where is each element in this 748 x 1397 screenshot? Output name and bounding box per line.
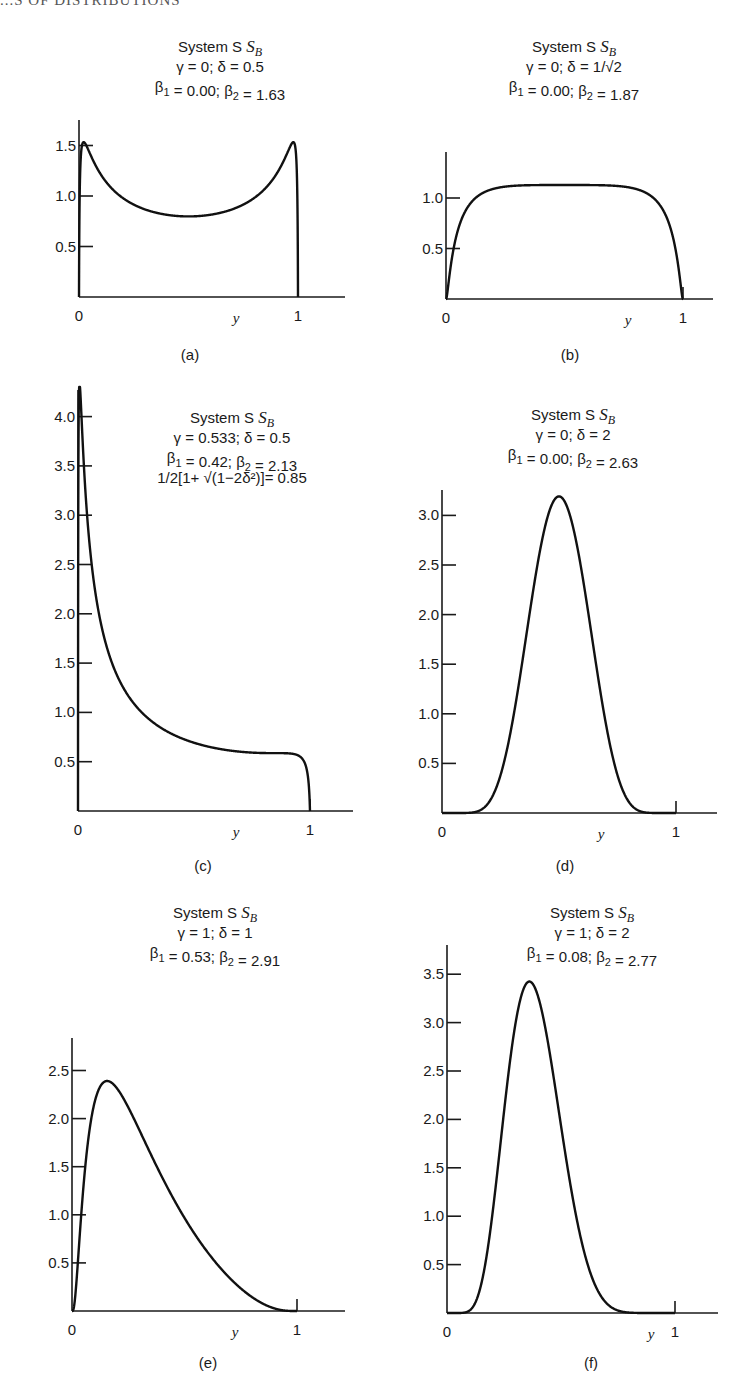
title-param-line: γ = 1; δ = 1 xyxy=(177,924,252,941)
y-tick-label: 1.0 xyxy=(48,1206,69,1223)
density-curve xyxy=(442,496,676,813)
y-tick-label: 2.0 xyxy=(48,1110,69,1127)
panel-caption: (e) xyxy=(199,1354,217,1371)
panel-c: System S SBγ = 0.533; δ = 0.5β1 = 0.42; … xyxy=(54,387,353,874)
y-tick-label: 0.5 xyxy=(48,1254,69,1271)
title-param-line: γ = 0; δ = 2 xyxy=(535,426,610,443)
x-tick-label-0: 0 xyxy=(443,1323,451,1340)
x-tick-label-0: 0 xyxy=(74,821,82,838)
panel-caption: (c) xyxy=(194,857,212,874)
y-tick-label: 3.0 xyxy=(418,506,439,523)
density-curve xyxy=(447,982,675,1313)
panel-title: System S SBγ = 0; δ = 1/√2β1 = 0.00; β2 … xyxy=(509,37,639,103)
panel-caption: (b) xyxy=(561,346,579,363)
panel-caption: (a) xyxy=(181,346,199,363)
panel-title: System S SBγ = 0; δ = 0.5β1 = 0.00; β2 =… xyxy=(155,37,285,103)
y-tick-label: 0.5 xyxy=(55,238,76,255)
y-tick-label: 3.0 xyxy=(423,1014,444,1031)
x-axis-label: y xyxy=(646,1326,655,1342)
panel-a: System S SBγ = 0; δ = 0.5β1 = 0.00; β2 =… xyxy=(55,37,345,363)
title-system-label: System S SB xyxy=(173,903,258,925)
y-tick-label: 2.0 xyxy=(418,606,439,623)
x-axis-label: y xyxy=(230,1324,239,1340)
density-curve xyxy=(446,185,683,299)
title-param-line: γ = 0.533; δ = 0.5 xyxy=(174,429,291,446)
panel-title: System S SBγ = 1; δ = 2β1 = 0.08; β2 = 2… xyxy=(527,903,657,969)
title-param-line: γ = 1; δ = 2 xyxy=(554,924,629,941)
y-tick-label: 1.5 xyxy=(423,1159,444,1176)
title-param-line: γ = 0; δ = 1/√2 xyxy=(526,58,622,75)
x-axis-label: y xyxy=(596,826,605,842)
panel-d: System S SBγ = 0; δ = 2β1 = 0.00; β2 = 2… xyxy=(418,405,717,874)
y-tick-label: 1.5 xyxy=(54,654,75,671)
y-tick-label: 1.5 xyxy=(55,137,76,154)
y-tick-label: 2.5 xyxy=(48,1062,69,1079)
title-system-label: System S SB xyxy=(550,903,635,925)
x-tick-label-1: 1 xyxy=(672,823,680,840)
title-system-label: System S SB xyxy=(532,37,617,59)
density-curve xyxy=(78,387,310,811)
x-tick-label-0: 0 xyxy=(68,1321,76,1338)
y-tick-label: 3.5 xyxy=(54,457,75,474)
x-tick-label-0: 0 xyxy=(75,307,83,324)
y-tick-label: 1.0 xyxy=(418,705,439,722)
y-tick-label: 2.5 xyxy=(418,556,439,573)
title-system-label: System S SB xyxy=(178,37,263,59)
y-tick-label: 3.5 xyxy=(423,965,444,982)
x-tick-label-0: 0 xyxy=(438,823,446,840)
panel-title: System S SBγ = 0; δ = 2β1 = 0.00; β2 = 2… xyxy=(508,405,638,471)
title-param-line: β1 = 0.08; β2 = 2.77 xyxy=(527,944,657,969)
y-tick-label: 1.0 xyxy=(54,703,75,720)
panel-title: System S SBγ = 1; δ = 1β1 = 0.53; β2 = 2… xyxy=(150,903,280,969)
y-tick-label: 0.5 xyxy=(423,1256,444,1273)
johnson-sb-density-figure: System S SBγ = 0; δ = 0.5β1 = 0.00; β2 =… xyxy=(0,0,748,1397)
y-tick-label: 0.5 xyxy=(54,753,75,770)
title-param-line: β1 = 0.00; β2 = 2.63 xyxy=(508,446,638,471)
x-tick-label-1: 1 xyxy=(306,821,314,838)
title-param-line: β1 = 0.53; β2 = 2.91 xyxy=(150,944,280,969)
x-axis-label: y xyxy=(231,310,240,326)
title-system-label: System S SB xyxy=(190,408,275,430)
y-tick-label: 4.0 xyxy=(54,408,75,425)
x-tick-label-1: 1 xyxy=(293,1321,301,1338)
panel-caption: (d) xyxy=(556,857,574,874)
x-tick-label-1: 1 xyxy=(679,309,687,326)
title-param-line: γ = 0; δ = 0.5 xyxy=(176,58,264,75)
panel-b: System S SBγ = 0; δ = 1/√2β1 = 0.00; β2 … xyxy=(422,37,713,363)
panel-caption: (f) xyxy=(584,1354,598,1371)
title-param-line: β1 = 0.00; β2 = 1.87 xyxy=(509,78,639,103)
density-curve xyxy=(79,142,298,297)
x-tick-label-0: 0 xyxy=(442,309,450,326)
y-tick-label: 3.0 xyxy=(54,506,75,523)
density-curve xyxy=(72,1081,297,1311)
y-tick-label: 1.0 xyxy=(55,187,76,204)
panel-f: System S SBγ = 1; δ = 2β1 = 0.08; β2 = 2… xyxy=(423,903,718,1371)
y-tick-label: 2.0 xyxy=(423,1110,444,1127)
x-tick-label-1: 1 xyxy=(294,307,302,324)
title-param-line: β1 = 0.00; β2 = 1.63 xyxy=(155,78,285,103)
y-tick-label: 0.5 xyxy=(422,240,443,257)
y-tick-label: 1.0 xyxy=(422,189,443,206)
y-tick-label: 2.5 xyxy=(54,556,75,573)
y-tick-label: 1.0 xyxy=(423,1207,444,1224)
title-system-label: System S SB xyxy=(531,405,616,427)
panel-title: System S SBγ = 0.533; δ = 0.5β1 = 0.42; … xyxy=(157,408,307,486)
y-tick-label: 2.0 xyxy=(54,605,75,622)
y-tick-label: 0.5 xyxy=(418,754,439,771)
x-tick-label-1: 1 xyxy=(671,1323,679,1340)
x-axis-label: y xyxy=(231,824,240,840)
panel-e: System S SBγ = 1; δ = 1β1 = 0.53; β2 = 2… xyxy=(48,903,345,1371)
title-param-line: 1/2[1+ √(1−2δ²)]= 0.85 xyxy=(157,469,307,486)
y-tick-label: 2.5 xyxy=(423,1062,444,1079)
x-axis-label: y xyxy=(623,312,632,328)
y-tick-label: 1.5 xyxy=(48,1158,69,1175)
y-tick-label: 1.5 xyxy=(418,655,439,672)
